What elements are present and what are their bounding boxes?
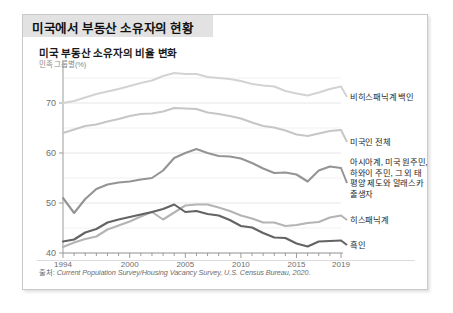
x-tick-label: 2019 <box>332 260 350 269</box>
chart-plot-area: 70605040 199420002005201020152019 비히스패닉계… <box>23 15 429 291</box>
infographic-card: 미국에서 부동산 소유자의 현황 미국 부동산 소유자의 비율 변화 민족 그룹… <box>22 14 428 290</box>
legend-label-white: 비히스패닉계 백인 <box>350 92 436 103</box>
leader-line-white <box>341 87 347 98</box>
legend-label-asian: 아시아계, 미국 원주민, 하와이 주민, 그 외 태평양 제도와 알래스카 출… <box>350 157 428 199</box>
screenshot-root: 미국에서 부동산 소유자의 현황 미국 부동산 소유자의 비율 변화 민족 그룹… <box>0 0 453 313</box>
series-line-all <box>63 108 341 136</box>
footer-divider <box>37 260 415 261</box>
y-tick-label: 70 <box>46 98 56 108</box>
leader-line-asian <box>341 168 347 183</box>
leader-line-all <box>341 130 347 142</box>
y-tick-label: 60 <box>46 148 56 158</box>
leader-line-hispanic <box>341 216 347 221</box>
source-text: Current Population Survey/Housing Vacanc… <box>57 268 311 277</box>
y-tick-label: 40 <box>46 248 56 258</box>
source-prefix: 출처: <box>39 268 57 277</box>
series-lines <box>63 73 341 247</box>
leader-line-black <box>341 241 347 246</box>
source-note: 출처: Current Population Survey/Housing Va… <box>39 267 310 277</box>
legend-label-black: 흑인 <box>350 240 436 251</box>
legend-label-hispanic: 히스패닉계 <box>350 215 436 226</box>
gridlines <box>63 78 341 253</box>
y-axis-ticks: 70605040 <box>46 98 63 258</box>
legend-label-all: 미국인 전체 <box>350 137 436 148</box>
y-tick-label: 50 <box>46 198 56 208</box>
legend-leader-lines <box>341 87 347 246</box>
series-line-hispanic <box>63 205 341 248</box>
